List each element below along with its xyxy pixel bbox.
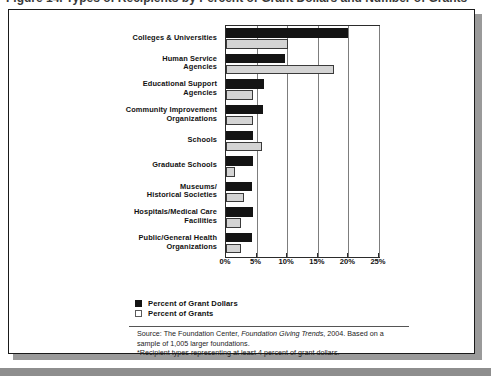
legend-label-grant-dollars: Percent of Grant Dollars <box>148 299 238 308</box>
category-row: Public/General Health Organizations <box>11 230 217 256</box>
category-row: Schools <box>11 127 217 153</box>
bar-group <box>226 205 379 231</box>
bar-group <box>226 180 379 206</box>
x-axis-ticks: 0%5%10%15%20%25% <box>225 257 378 269</box>
category-row: Community Improvement Organizations <box>11 102 217 128</box>
bar-grant-dollars <box>226 28 348 37</box>
category-label: Schools <box>188 136 217 145</box>
bar-grants <box>226 116 253 125</box>
source-line-1: Source: The Foundation Center, Foundatio… <box>137 329 437 339</box>
source-publication-title: Foundation Giving Trends <box>241 329 323 338</box>
plot-area <box>225 25 380 258</box>
bar-grant-dollars <box>226 131 253 140</box>
legend-label-grants: Percent of Grants <box>148 309 213 318</box>
category-label: Community Improvement Organizations <box>126 106 217 123</box>
bar-grants <box>226 142 262 151</box>
bar-grant-dollars <box>226 207 253 216</box>
category-label: Educational Support Agencies <box>143 80 217 97</box>
figure-container: Figure 14. Types of Recipients by Percen… <box>0 0 491 376</box>
x-tick-label: 0% <box>220 257 231 266</box>
bar-grants <box>226 39 288 48</box>
legend-item-dollars: Percent of Grant Dollars <box>135 298 238 309</box>
bar-grant-dollars <box>226 79 264 88</box>
bar-grants <box>226 193 244 202</box>
source-line-3: *Recipient types representing at least 4… <box>137 348 437 358</box>
category-label: Human Service Agencies <box>162 55 217 72</box>
source-note: Source: The Foundation Center, Foundatio… <box>137 329 437 358</box>
gridline <box>379 26 380 257</box>
x-tick-label: 15% <box>309 257 324 266</box>
bar-grant-dollars <box>226 233 252 242</box>
bar-grant-dollars <box>226 156 253 165</box>
bar-grants <box>226 218 241 227</box>
x-tick-label: 5% <box>250 257 261 266</box>
bar-group <box>226 103 379 129</box>
bar-grants <box>226 65 334 74</box>
category-row: Hospitals/Medical Care Facilities <box>11 204 217 230</box>
legend-swatch-grants <box>135 310 142 317</box>
bar-group <box>226 77 379 103</box>
category-row: Educational Support Agencies <box>11 76 217 102</box>
category-row: Colleges & Universities <box>11 25 217 51</box>
source-line-2: sample of 1,005 larger foundations. <box>137 339 437 349</box>
figure-title-text: Figure 14. Types of Recipients by Percen… <box>6 0 472 5</box>
category-label: Hospitals/Medical Care Facilities <box>134 208 217 225</box>
bar-group <box>226 154 379 180</box>
bar-grants <box>226 244 241 253</box>
category-row: Museums/ Historical Societies <box>11 179 217 205</box>
bar-grant-dollars <box>226 182 252 191</box>
category-axis-labels: Colleges & UniversitiesHuman Service Age… <box>11 25 217 255</box>
bar-chart: Colleges & UniversitiesHuman Service Age… <box>9 10 476 293</box>
source-line-1-suffix: , 2004. Based on a <box>323 329 383 338</box>
bar-grants <box>226 90 253 99</box>
page-edge-band <box>0 368 491 376</box>
category-label: Museums/ Historical Societies <box>147 183 217 200</box>
bar-group <box>226 231 379 257</box>
legend-item-grants: Percent of Grants <box>135 309 238 320</box>
bar-group <box>226 128 379 154</box>
category-label: Public/General Health Organizations <box>139 234 218 251</box>
bar-group <box>226 26 379 52</box>
category-row: Graduate Schools <box>11 153 217 179</box>
bar-grant-dollars <box>226 105 263 114</box>
bar-grants <box>226 167 235 176</box>
bar-grant-dollars <box>226 54 285 63</box>
figure-title-cropped: Figure 14. Types of Recipients by Percen… <box>0 0 491 9</box>
category-label: Colleges & Universities <box>133 34 217 43</box>
bar-group <box>226 52 379 78</box>
x-tick-label: 20% <box>340 257 355 266</box>
category-row: Human Service Agencies <box>11 51 217 77</box>
x-tick-label: 10% <box>279 257 294 266</box>
source-line-1-prefix: Source: The Foundation Center, <box>137 329 241 338</box>
chart-legend: Percent of Grant Dollars Percent of Gran… <box>135 298 238 319</box>
figure-panel: Colleges & UniversitiesHuman Service Age… <box>8 9 475 354</box>
source-divider <box>129 326 409 327</box>
legend-swatch-grant-dollars <box>135 300 142 307</box>
x-tick-label: 25% <box>370 257 385 266</box>
category-label: Graduate Schools <box>152 161 217 170</box>
